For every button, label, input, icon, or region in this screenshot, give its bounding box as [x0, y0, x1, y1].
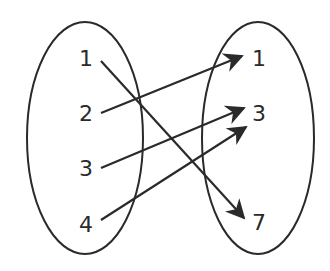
mapping-diagram: 1 2 3 4 1 3 7	[0, 0, 330, 271]
range-element-1: 1	[252, 46, 266, 71]
domain-element-1: 1	[79, 46, 93, 71]
arrow-3-to-3	[101, 108, 244, 168]
domain-element-4: 4	[79, 212, 93, 237]
range-element-7: 7	[252, 210, 266, 235]
domain-element-2: 2	[79, 101, 93, 126]
domain-element-3: 3	[79, 156, 93, 181]
range-element-3: 3	[252, 101, 266, 126]
